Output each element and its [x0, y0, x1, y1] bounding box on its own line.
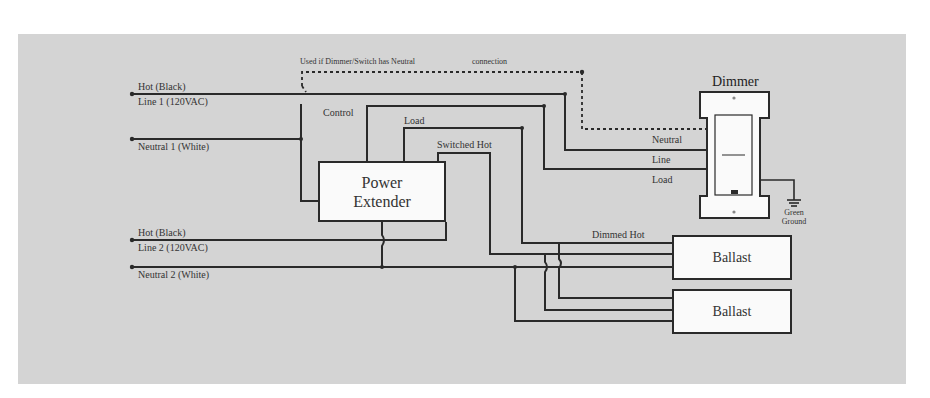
ballast-2-box: Ballast — [672, 289, 792, 334]
ballast-1-box: Ballast — [672, 235, 792, 280]
dimmed-hot-label: Dimmed Hot — [592, 230, 645, 240]
load-label: Load — [404, 116, 425, 126]
neutral1-wire — [132, 104, 318, 201]
dimmer-line-label: Line — [652, 155, 670, 165]
neutral2-label: Neutral 2 (White) — [138, 270, 209, 280]
switched-hot-label: Switched Hot — [437, 140, 492, 150]
ground-label: Green Ground — [776, 208, 812, 226]
ballast2-wires — [515, 254, 672, 321]
optional-neutral-note: Used if Dimmer/Switch has Neutral — [300, 58, 415, 66]
ballast-2-label: Ballast — [713, 304, 752, 320]
control-label: Control — [323, 108, 354, 118]
dimmer-load-label: Load — [652, 175, 673, 185]
neutral2-wire — [132, 222, 672, 267]
wiring-diagram — [0, 0, 930, 398]
ground-label-ground: Ground — [782, 217, 806, 226]
line1-label: Line 1 (120VAC) — [138, 97, 208, 107]
optional-neutral-wire — [302, 72, 712, 129]
ballast-1-label: Ballast — [713, 250, 752, 266]
dimmer-neutral-label: Neutral — [652, 135, 682, 145]
dimmer-title: Dimmer — [712, 74, 759, 90]
power-extender-label-2: Extender — [353, 192, 411, 211]
power-extender-box: Power Extender — [318, 161, 446, 222]
dimmer-body — [700, 92, 769, 218]
optional-neutral-note-connection: connection — [472, 58, 507, 66]
power-extender-label-1: Power — [362, 173, 403, 192]
hot1-label: Hot (Black) — [138, 82, 186, 92]
ground-label-green: Green — [784, 208, 804, 217]
neutral1-label: Neutral 1 (White) — [138, 142, 209, 152]
line2-label: Line 2 (120VAC) — [138, 243, 208, 253]
hot2-label: Hot (Black) — [138, 228, 186, 238]
